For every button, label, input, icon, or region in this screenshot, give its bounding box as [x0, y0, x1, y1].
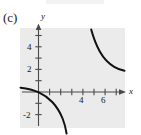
x-tick-label-4: 4: [79, 95, 84, 105]
y-tick-label-minus-2: -2: [23, 110, 31, 120]
y-axis-label: y: [41, 11, 45, 21]
y-axis: [36, 24, 42, 127]
y-tick-label-4: 4: [27, 42, 32, 52]
curve-right-branch: [91, 30, 124, 71]
x-axis-label: x: [129, 86, 133, 96]
x-tick-label-6: 6: [101, 95, 106, 105]
figure-panel: (c): [0, 0, 141, 135]
plot-canvas: [0, 0, 141, 135]
y-tick-label-2: 2: [27, 64, 32, 74]
